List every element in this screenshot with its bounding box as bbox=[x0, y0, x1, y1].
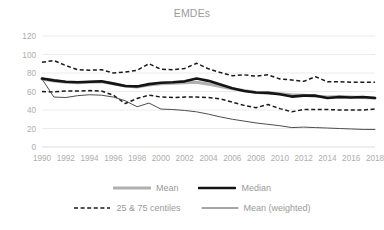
legend-item-mean-weighted[interactable]: Mean (weighted) bbox=[201, 203, 311, 213]
x-tick-label: 1992 bbox=[57, 154, 76, 163]
x-tick-label: 2014 bbox=[318, 154, 337, 163]
x-tick-label: 2004 bbox=[199, 154, 218, 163]
legend-item-median[interactable]: Median bbox=[198, 183, 271, 193]
chart-legend: MeanMedian25 & 75 centilesMean (weighted… bbox=[0, 178, 384, 218]
legend-label: Mean (weighted) bbox=[244, 203, 311, 213]
x-tick-label: 1990 bbox=[33, 154, 52, 163]
series-line-25-75-centiles-25th-centile bbox=[42, 91, 375, 112]
chart-container: EMDEs 020406080100120 199019921994199619… bbox=[0, 0, 384, 230]
y-tick-label: 80 bbox=[27, 69, 37, 78]
legend-swatch-thick-black bbox=[198, 183, 236, 193]
y-axis-tick-labels: 020406080100120 bbox=[22, 32, 36, 152]
legend-item-25-75-centiles[interactable]: 25 & 75 centiles bbox=[73, 203, 180, 213]
legend-row: MeanMedian bbox=[0, 178, 384, 198]
x-tick-label: 1998 bbox=[128, 154, 147, 163]
y-tick-label: 120 bbox=[22, 32, 36, 41]
x-tick-label: 2000 bbox=[152, 154, 171, 163]
series-line-mean-weighted bbox=[42, 79, 375, 129]
plot-area: 020406080100120 199019921994199619982000… bbox=[0, 0, 384, 178]
y-tick-label: 20 bbox=[27, 125, 37, 134]
x-tick-label: 2006 bbox=[223, 154, 242, 163]
legend-swatch-thick-gray bbox=[113, 183, 151, 193]
legend-item-mean[interactable]: Mean bbox=[113, 183, 179, 193]
y-tick-label: 40 bbox=[27, 106, 37, 115]
data-series-layer bbox=[42, 61, 375, 130]
x-tick-label: 2016 bbox=[342, 154, 361, 163]
x-tick-label: 2010 bbox=[271, 154, 290, 163]
x-tick-label: 1996 bbox=[104, 154, 123, 163]
y-tick-label: 0 bbox=[31, 143, 36, 152]
x-axis-tick-labels: 1990199219941996199820002002200420062008… bbox=[33, 154, 384, 163]
legend-label: 25 & 75 centiles bbox=[116, 203, 180, 213]
legend-swatch-thin-black bbox=[201, 203, 239, 213]
legend-row: 25 & 75 centilesMean (weighted) bbox=[0, 198, 384, 218]
gridlines bbox=[42, 36, 375, 147]
y-tick-label: 60 bbox=[27, 88, 37, 97]
series-line-25-75-centiles-75th-centile bbox=[42, 61, 375, 83]
legend-label: Mean bbox=[156, 183, 179, 193]
x-tick-label: 2012 bbox=[295, 154, 314, 163]
y-tick-label: 100 bbox=[22, 51, 36, 60]
x-tick-label: 2002 bbox=[176, 154, 195, 163]
legend-swatch-dashed-black bbox=[73, 203, 111, 213]
x-tick-label: 2008 bbox=[247, 154, 266, 163]
x-tick-label: 2018 bbox=[366, 154, 384, 163]
legend-label: Median bbox=[241, 183, 271, 193]
x-tick-label: 1994 bbox=[80, 154, 99, 163]
